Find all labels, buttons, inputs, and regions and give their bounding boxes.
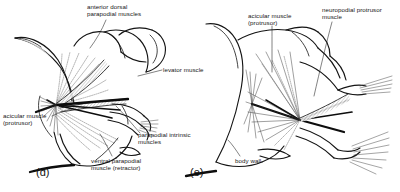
label-line-2: parapodial muscles: [87, 10, 141, 17]
label-line-2: (protrusor): [3, 119, 32, 126]
label-line-2: (protrusor): [248, 19, 277, 26]
label-body-wall: body wall: [235, 157, 261, 164]
label-acicular-muscle-protrusor-e: acicular muscle (protrusor): [248, 12, 291, 27]
label-line-1: ventral parapodial: [91, 157, 141, 164]
label-line-1: anterior dorsal: [87, 3, 127, 10]
label-ventral-parapodial-muscle-retractor: ventral parapodial muscle (retractor): [91, 157, 141, 172]
panel-d-drawing: [15, 28, 165, 172]
label-levator-muscle: levator muscle: [163, 66, 204, 73]
neuropodial-setae-e: [350, 132, 389, 174]
label-anterior-dorsal-parapodial-muscles: anterior dorsal parapodial muscles: [87, 3, 141, 18]
acicular-muscle-fan-e: [246, 50, 300, 150]
label-line-2: muscles: [138, 138, 161, 145]
ventral-parapodial-fibers: [55, 108, 118, 150]
panel-e-drawing: [186, 24, 392, 176]
panel-letter-e: (e): [190, 166, 203, 178]
panel-letter-d: (d): [36, 166, 49, 178]
anterior-dorsal-muscle-fan: [56, 52, 108, 105]
figure-root: .ol { fill:none; stroke:#141414; stroke-…: [0, 0, 400, 192]
label-acicular-muscle-protrusor-d: acicular muscle (protrusor): [3, 112, 46, 127]
label-parapodial-intrinsic-muscles: parapodial intrinsic muscles: [138, 131, 191, 146]
notopodial-setae-e: [360, 76, 392, 94]
label-neuropodial-protrusor-muscle: neuropodial protrusor muscle: [322, 6, 382, 21]
label-line-1: acicular muscle: [248, 12, 291, 19]
diagram-artwork: .ol { fill:none; stroke:#141414; stroke-…: [0, 0, 400, 192]
label-line-2: muscle (retractor): [91, 164, 140, 171]
label-line-1: acicular muscle: [3, 112, 46, 119]
label-line-1: neuropodial protrusor: [322, 6, 382, 13]
label-line-1: parapodial intrinsic: [138, 131, 191, 138]
label-line-2: muscle: [322, 13, 342, 20]
